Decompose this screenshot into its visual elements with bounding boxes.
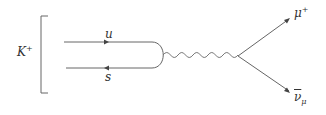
antineutrino-label: νμ xyxy=(294,91,307,106)
w-boson-propagator xyxy=(163,53,238,58)
hadron-bracket xyxy=(41,16,48,93)
muon-label: μ+ xyxy=(294,6,309,19)
annihilation-curve xyxy=(152,42,163,68)
muon-line xyxy=(238,19,289,56)
s-quark-label: s xyxy=(105,71,111,83)
kaon-label: K+ xyxy=(17,45,33,58)
muon-arrow-icon xyxy=(284,18,290,24)
u-quark-label: u xyxy=(105,28,113,40)
antineutrino-line xyxy=(238,56,289,91)
feynman-diagram xyxy=(0,0,326,115)
